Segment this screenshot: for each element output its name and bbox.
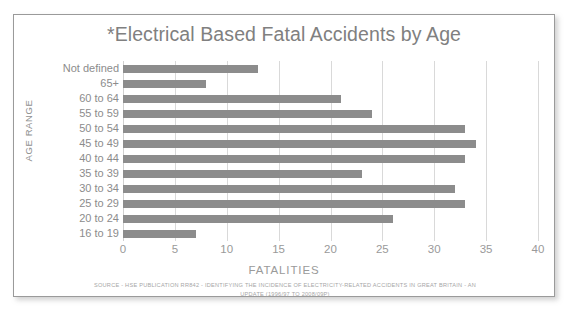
x-tick-label: 25 — [376, 243, 389, 255]
category-label: 25 to 29 — [34, 196, 119, 211]
category-label: 30 to 34 — [34, 181, 119, 196]
x-tick-label: 30 — [428, 243, 441, 255]
category-axis-labels: Not defined65+60 to 6455 to 5950 to 5445… — [34, 61, 119, 241]
bar — [123, 125, 465, 133]
bar — [123, 215, 393, 223]
bar — [123, 200, 465, 208]
bar-row — [123, 226, 538, 241]
bar-row — [123, 211, 538, 226]
source-note-line-1: SOURCE - HSE PUBLICATION RR842 - IDENTIF… — [56, 281, 514, 290]
bar-row — [123, 196, 538, 211]
x-axis-title: FATALITIES — [14, 264, 554, 276]
bar — [123, 65, 258, 73]
bar — [123, 155, 465, 163]
bar-row — [123, 76, 538, 91]
chart-card: *Electrical Based Fatal Accidents by Age… — [13, 14, 555, 297]
gridline-40 — [538, 61, 539, 241]
category-label: 50 to 54 — [34, 121, 119, 136]
bar-row — [123, 106, 538, 121]
x-axis-tick-labels: 0510152025303540 — [123, 243, 538, 261]
bar — [123, 230, 196, 238]
bar-row — [123, 91, 538, 106]
bar-row — [123, 136, 538, 151]
x-tick-label: 15 — [272, 243, 285, 255]
bar-row — [123, 121, 538, 136]
source-note: SOURCE - HSE PUBLICATION RR842 - IDENTIF… — [56, 281, 514, 299]
bar — [123, 110, 372, 118]
category-label: 60 to 64 — [34, 91, 119, 106]
category-label: 55 to 59 — [34, 106, 119, 121]
x-tick-label: 35 — [480, 243, 493, 255]
bar-series — [123, 61, 538, 241]
bar-row — [123, 151, 538, 166]
bar — [123, 170, 362, 178]
category-label: 65+ — [34, 76, 119, 91]
category-label: 20 to 24 — [34, 211, 119, 226]
category-label: 35 to 39 — [34, 166, 119, 181]
bar — [123, 80, 206, 88]
category-label: 45 to 49 — [34, 136, 119, 151]
category-label: 16 to 19 — [34, 226, 119, 241]
plot-area — [123, 61, 538, 241]
bar — [123, 185, 455, 193]
x-tick-label: 20 — [324, 243, 337, 255]
y-axis-title: AGE RANGE — [23, 96, 34, 166]
x-tick-label: 5 — [172, 243, 178, 255]
bar — [123, 95, 341, 103]
x-tick-label: 10 — [220, 243, 233, 255]
bar — [123, 140, 476, 148]
bar-row — [123, 61, 538, 76]
category-label: Not defined — [34, 61, 119, 76]
x-tick-label: 0 — [120, 243, 126, 255]
x-tick-label: 40 — [532, 243, 545, 255]
plot-wrapper: AGE RANGE Not defined65+60 to 6455 to 59… — [14, 15, 554, 296]
bar-row — [123, 181, 538, 196]
bar-row — [123, 166, 538, 181]
category-label: 40 to 44 — [34, 151, 119, 166]
source-note-line-2: UPDATE (1996/97 TO 2008/09P) — [56, 290, 514, 299]
